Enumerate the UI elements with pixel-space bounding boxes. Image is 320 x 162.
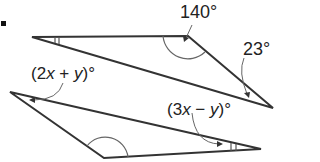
label-var-y: y <box>210 100 219 119</box>
label-op: − <box>191 100 210 119</box>
upper-left-congruence-mark <box>55 37 59 44</box>
label-part: )° <box>219 100 231 119</box>
label-part: (3 <box>167 100 182 119</box>
label-part: (2 <box>31 64 46 83</box>
label-var-x: x <box>46 64 55 83</box>
label-part: )° <box>83 64 95 83</box>
angle-label-23: 23° <box>243 40 270 58</box>
angle-label-140: 140° <box>180 3 217 21</box>
angle-label-3x-minus-y: (3x − y)° <box>167 101 231 118</box>
label-var-y: y <box>74 64 83 83</box>
label-var-x: x <box>182 100 191 119</box>
leader-23 <box>242 58 250 98</box>
label-op: + <box>55 64 74 83</box>
angle-label-2x-plus-y: (2x + y)° <box>31 65 95 82</box>
lower-bottom-angle-arc <box>87 137 128 157</box>
